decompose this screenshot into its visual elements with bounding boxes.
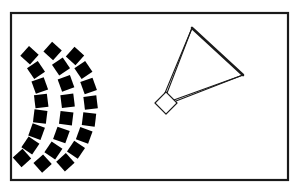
figure-svg (0, 0, 297, 193)
array-square (34, 94, 48, 108)
figure-canvas (0, 0, 297, 193)
array-square (33, 109, 47, 123)
array-square (59, 111, 73, 125)
array-square (60, 94, 74, 108)
array-square (82, 112, 96, 126)
array-square (83, 95, 97, 109)
